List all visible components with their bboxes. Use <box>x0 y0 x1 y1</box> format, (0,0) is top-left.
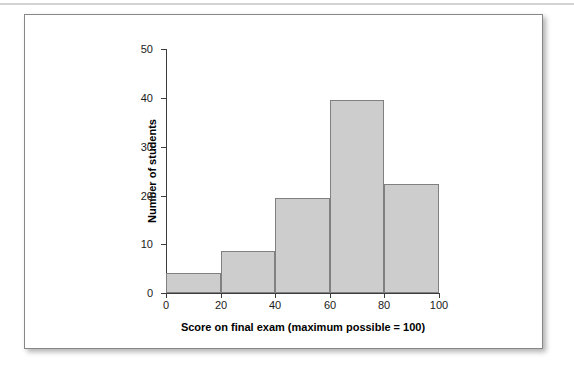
x-tick-100 <box>439 293 440 298</box>
histogram-bar <box>275 198 330 293</box>
x-tick-20 <box>221 293 222 298</box>
x-tick-label-100: 100 <box>430 299 448 311</box>
y-axis-title: Number of students <box>146 119 158 223</box>
y-axis-line <box>166 49 167 294</box>
x-tick-0 <box>166 293 167 298</box>
x-tick-label-80: 80 <box>378 299 390 311</box>
y-tick-40: 40 <box>161 98 166 99</box>
x-tick-label-0: 0 <box>163 299 169 311</box>
histogram-bar <box>384 184 439 293</box>
y-tick-10: 10 <box>161 244 166 245</box>
y-tick-label-50: 50 <box>141 43 153 55</box>
y-tick-label-0: 0 <box>147 287 153 299</box>
y-tick-label-30: 30 <box>141 141 153 153</box>
x-tick-label-20: 20 <box>215 299 227 311</box>
x-tick-40 <box>275 293 276 298</box>
histogram-bar <box>330 100 385 293</box>
x-tick-label-60: 60 <box>324 299 336 311</box>
x-tick-80 <box>384 293 385 298</box>
y-tick-label-10: 10 <box>141 238 153 250</box>
histogram-bar <box>166 273 221 293</box>
y-tick-20: 20 <box>161 196 166 197</box>
y-tick-label-40: 40 <box>141 92 153 104</box>
x-axis-title: Score on final exam (maximum possible = … <box>181 321 425 333</box>
figure-panel: Number of students Score on final exam (… <box>24 14 543 349</box>
top-divider-rule <box>0 3 574 5</box>
y-tick-label-20: 20 <box>141 190 153 202</box>
histogram-bar <box>221 251 276 293</box>
x-tick-label-40: 40 <box>269 299 281 311</box>
x-tick-60 <box>330 293 331 298</box>
y-tick-50: 50 <box>161 49 166 50</box>
histogram-plot-area: Number of students Score on final exam (… <box>166 49 439 293</box>
y-tick-30: 30 <box>161 147 166 148</box>
x-axis-line <box>166 293 440 294</box>
